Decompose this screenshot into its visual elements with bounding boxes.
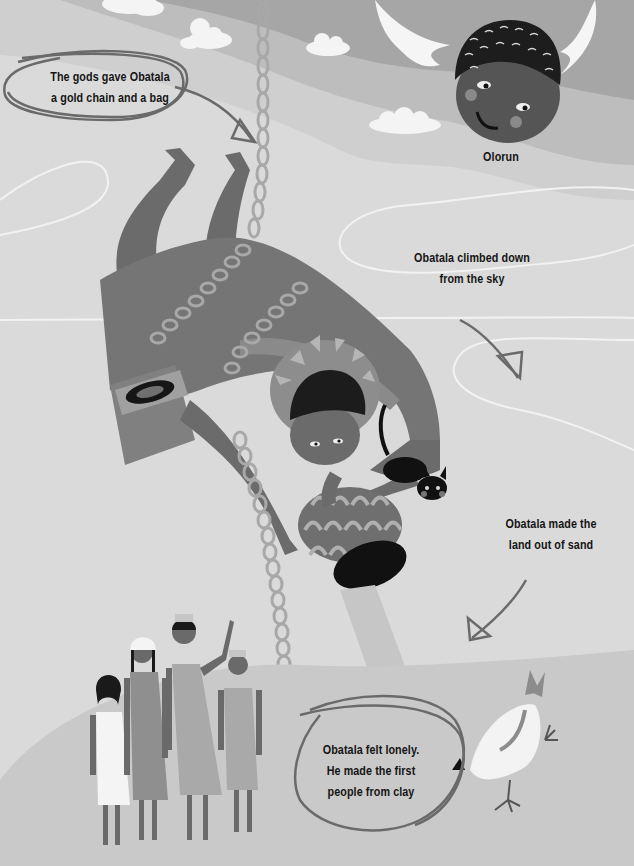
caption-line: from the sky bbox=[399, 269, 545, 290]
obatala-arm bbox=[180, 400, 298, 555]
arrow-head-icon bbox=[232, 120, 255, 142]
obatala-figure bbox=[100, 148, 440, 555]
scene-illustration bbox=[0, 0, 634, 866]
caption-line: Obatala felt lonely. bbox=[307, 740, 436, 761]
caption-line: people from clay bbox=[307, 782, 436, 803]
caption-climbed: Obatala climbed down from the sky bbox=[399, 248, 545, 290]
caption-line: Obatala climbed down bbox=[399, 248, 545, 269]
caption-line: a gold chain and a bag bbox=[24, 88, 196, 109]
caption-line: The gods gave Obatala bbox=[24, 67, 196, 88]
illustration-page: The gods gave Obatala a gold chain and a… bbox=[0, 0, 634, 866]
caption-line: land out of sand bbox=[487, 535, 616, 556]
caption-line: Obatala made the bbox=[487, 514, 616, 535]
arrow-head-icon bbox=[468, 618, 490, 640]
caption-land: Obatala made the land out of sand bbox=[487, 514, 616, 556]
caption-gods-gift: The gods gave Obatala a gold chain and a… bbox=[24, 67, 196, 109]
caption-lonely: Obatala felt lonely. He made the first p… bbox=[307, 740, 436, 803]
caption-line: He made the first bbox=[307, 761, 436, 782]
sand-bowl bbox=[298, 475, 413, 690]
caption-olorun: Olorun bbox=[471, 147, 531, 168]
